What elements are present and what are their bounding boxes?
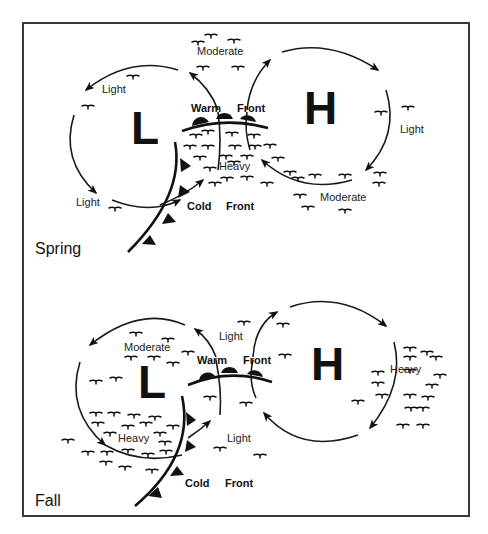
warm-front-label-2: Front xyxy=(243,354,271,366)
intensity-label: Moderate xyxy=(197,45,243,57)
intensity-label: Light xyxy=(400,123,424,135)
warm-front-label-1: Warm xyxy=(191,102,221,114)
low-pressure-label: L xyxy=(131,102,159,154)
intensity-label: Light xyxy=(227,432,251,444)
intensity-label: Heavy xyxy=(118,432,150,444)
high-pressure-label: H xyxy=(304,82,337,134)
cold-front-label-2: Front xyxy=(225,477,253,489)
season-label-spring: Spring xyxy=(35,240,81,257)
warm-front-label-1: Warm xyxy=(197,354,227,366)
warm-front-label-2: Front xyxy=(237,102,265,114)
cold-front-label-1: Cold xyxy=(185,477,209,489)
intensity-label: Light xyxy=(102,83,126,95)
low-pressure-label: L xyxy=(138,356,166,408)
cold-front xyxy=(128,142,191,252)
warm-front xyxy=(188,367,272,385)
intensity-label: Moderate xyxy=(320,191,366,203)
intensity-label: Moderate xyxy=(124,341,170,353)
season-label-fall: Fall xyxy=(35,492,61,509)
cold-front-label-1: Cold xyxy=(187,200,211,212)
spring-panel: L H Warm Front Cold Front Moderate Light… xyxy=(35,34,424,257)
high-pressure-label: H xyxy=(311,338,344,390)
intensity-label: Light xyxy=(219,330,243,342)
warm-front xyxy=(182,113,268,131)
seasonal-cyclone-precipitation-diagram: L H Warm Front Cold Front Moderate Light… xyxy=(0,0,488,534)
fall-panel: L H Warm Front Cold Front Moderate Heavy… xyxy=(35,302,446,509)
intensity-label: Light xyxy=(76,196,100,208)
cold-front-label-2: Front xyxy=(226,200,254,212)
